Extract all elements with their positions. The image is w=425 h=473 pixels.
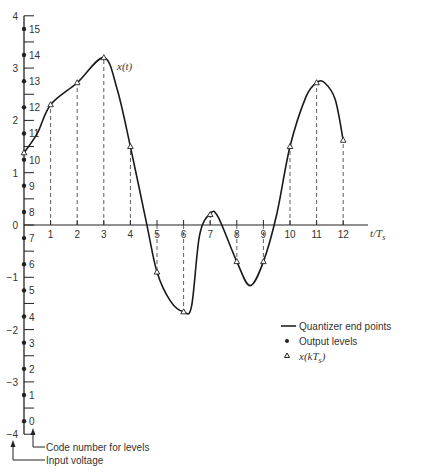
sample-triangle-icon (128, 144, 134, 149)
code-number-label: 15 (29, 24, 41, 35)
output-level-dot-icon (22, 131, 26, 135)
axes: −4−3−2−101234012345678910111213141512345… (7, 11, 368, 440)
code-number-label: 9 (29, 181, 35, 192)
quantization-diagram: −4−3−2−101234012345678910111213141512345… (0, 0, 425, 473)
code-number-label: 4 (29, 312, 35, 323)
output-level-dot-icon (22, 288, 26, 292)
x-tick-label: 4 (128, 229, 134, 240)
code-number-label: 14 (29, 50, 41, 61)
legend: Quantizer end points Output levels x(kTs… (281, 321, 391, 365)
y-tick-label: 2 (12, 115, 18, 126)
output-level-dot-icon (22, 262, 26, 266)
code-number-label: Code number for levels (46, 442, 149, 453)
x-axis-label: t/Ts (370, 227, 385, 242)
arrow-input-voltage-icon (11, 440, 16, 447)
y-tick-label: 0 (12, 220, 18, 231)
code-number-label: 12 (29, 102, 41, 113)
x-tick-label: 12 (338, 229, 350, 240)
y-tick-label: −4 (7, 429, 19, 440)
output-level-dot-icon (22, 210, 26, 214)
y-tick-label: 3 (12, 63, 18, 74)
output-level-dot-icon (22, 340, 26, 344)
output-level-dot-icon (22, 236, 26, 240)
y-tick-label: 1 (12, 168, 18, 179)
output-level-dot-icon (22, 157, 26, 161)
code-number-label: 2 (29, 364, 35, 375)
output-level-dot-icon (22, 314, 26, 318)
x-tick-label: 2 (74, 229, 80, 240)
code-number-label: 10 (29, 155, 41, 166)
output-level-dot-icon (22, 79, 26, 83)
y-tick-label: 4 (12, 11, 18, 22)
output-level-dot-icon (22, 367, 26, 371)
code-number-label: 6 (29, 259, 35, 270)
output-level-dot-icon (22, 184, 26, 188)
sample-triangle-icon (234, 259, 240, 264)
output-level-dot-icon (22, 419, 26, 423)
code-number-label: 5 (29, 285, 35, 296)
code-number-label: 8 (29, 207, 35, 218)
code-number-label: 1 (29, 390, 35, 401)
y-tick-label: −3 (7, 377, 19, 388)
x-tick-label: 10 (284, 229, 296, 240)
legend-endpoints-label: Quantizer end points (299, 321, 391, 332)
curve-label: x(t) (116, 60, 133, 73)
arrow-code-number-icon (31, 428, 36, 435)
x-tick-label: 11 (311, 229, 322, 240)
code-number-label: 7 (29, 233, 35, 244)
output-level-dot-icon (22, 105, 26, 109)
x-tick-label: 3 (101, 229, 107, 240)
x-tick-label: 1 (48, 229, 54, 240)
y-tick-label: −2 (7, 325, 19, 336)
code-number-label: 0 (29, 416, 35, 427)
sample-triangle-icon (154, 269, 160, 274)
sample-triangle-icon (261, 259, 267, 264)
output-level-dot-icon (22, 27, 26, 31)
sample-markers (21, 55, 346, 314)
legend-triangle-icon (285, 353, 290, 358)
code-number-label: 3 (29, 338, 35, 349)
output-level-dot-icon (22, 53, 26, 57)
legend-sample-label: x(kTs) (298, 350, 326, 365)
legend-output-label: Output levels (299, 336, 357, 347)
sample-triangle-icon (287, 144, 293, 149)
x-tick-label: 7 (207, 229, 213, 240)
output-level-dot-icon (22, 393, 26, 397)
input-voltage-label: Input voltage (46, 455, 104, 466)
code-number-label: 13 (29, 76, 41, 87)
y-tick-label: −1 (7, 272, 19, 283)
sample-triangle-icon (340, 137, 346, 142)
legend-dot-icon (285, 339, 289, 343)
